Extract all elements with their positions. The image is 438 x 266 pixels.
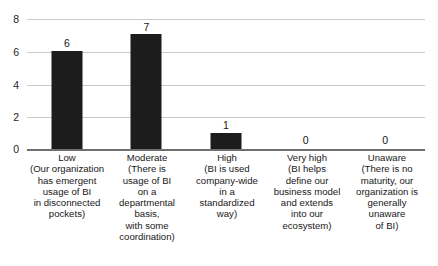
bar-value-unaware: 0 (382, 135, 388, 146)
bar-slot-high: 1 (186, 14, 266, 150)
bar-low[interactable] (51, 51, 82, 149)
bar-chart: 8 6 4 2 0 6 7 1 0 0 Low (Our organizati (0, 0, 438, 266)
category-label-very-high: Very high (BI helps define our business … (262, 152, 352, 231)
category-label-high: High (BI is used company-wide in a stand… (184, 152, 270, 220)
y-tick-label-8: 8 (0, 14, 19, 24)
bar-slot-low: 6 (27, 14, 107, 150)
bar-value-low: 6 (64, 38, 70, 49)
bar-slot-very-high: 0 (266, 14, 346, 150)
bar-value-very-high: 0 (303, 135, 309, 146)
category-label-low: Low (Our organization has emergent usage… (24, 152, 110, 220)
y-tick-label-0: 0 (0, 144, 19, 154)
y-tick-label-4: 4 (0, 80, 19, 90)
category-label-moderate: Moderate (There is usage of BI on a depa… (104, 152, 190, 242)
bar-high[interactable] (210, 133, 241, 149)
y-tick-label-2: 2 (0, 112, 19, 122)
category-label-unaware: Unaware (There is no maturity, our organ… (342, 152, 432, 231)
bar-slot-moderate: 7 (107, 14, 187, 150)
x-axis-category-labels: Low (Our organization has emergent usage… (27, 152, 425, 264)
bar-value-moderate: 7 (143, 22, 149, 33)
bar-moderate[interactable] (131, 34, 162, 149)
bar-slot-unaware: 0 (345, 14, 425, 150)
bar-value-high: 1 (223, 120, 229, 131)
bars-layer: 6 7 1 0 0 (27, 14, 425, 150)
y-tick-label-6: 6 (0, 47, 19, 57)
